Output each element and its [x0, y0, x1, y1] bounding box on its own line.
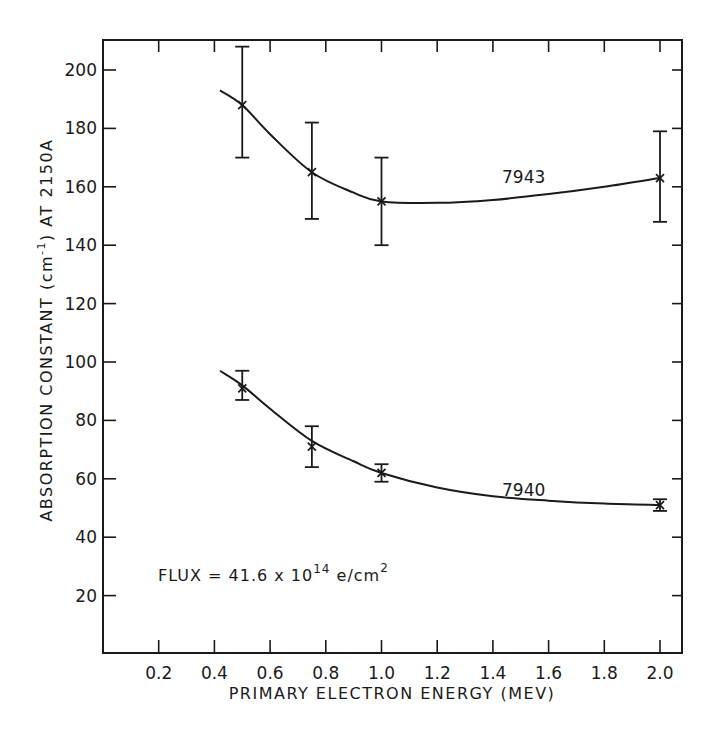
- data-point-7943: [653, 131, 667, 222]
- y-axis-ticks: 20406080100120140160180200: [65, 60, 682, 606]
- x-tick-label: 0.6: [257, 663, 284, 683]
- x-axis-title: PRIMARY ELECTRON ENERGY (MEV): [229, 684, 556, 703]
- plot-border: [103, 40, 682, 653]
- series-curves: [220, 90, 660, 505]
- y-tick-label: 180: [65, 118, 97, 138]
- plot-frame: [103, 40, 682, 653]
- y-axis-title-sup: -1: [35, 241, 48, 255]
- flux-exponent: 14: [313, 562, 330, 576]
- series-curve-7940: [220, 371, 660, 505]
- flux-annotation: FLUX = 41.6 x 1014 e/cm2: [158, 561, 389, 585]
- x-tick-label: 1.4: [479, 663, 506, 683]
- y-axis-title-tail: ) AT 2150A: [37, 138, 56, 241]
- chart: 0.20.40.60.81.01.21.41.61.82.0 204060801…: [0, 0, 723, 735]
- y-tick-label: 40: [75, 527, 97, 547]
- y-tick-label: 80: [75, 410, 97, 430]
- x-tick-label: 0.4: [201, 663, 228, 683]
- y-tick-label: 100: [65, 352, 97, 372]
- y-tick-label: 60: [75, 469, 97, 489]
- flux-unit: e/cm: [330, 566, 380, 585]
- flux-prefix: FLUX = 41.6 x 10: [158, 566, 313, 585]
- y-tick-label: 20: [75, 586, 97, 606]
- data-point-7940: [375, 464, 389, 482]
- x-tick-label: 1.8: [591, 663, 618, 683]
- data-point-7940: [235, 371, 249, 400]
- data-points: [235, 47, 667, 511]
- x-tick-label: 0.8: [312, 663, 339, 683]
- flux-unit-exponent: 2: [380, 561, 389, 575]
- y-tick-label: 120: [65, 294, 97, 314]
- x-tick-label: 1.2: [424, 663, 451, 683]
- y-axis-title: ABSORPTION CONSTANT (cm-1) AT 2150A: [35, 138, 56, 521]
- x-tick-label: 0.2: [145, 663, 172, 683]
- y-tick-label: 200: [65, 60, 97, 80]
- x-axis-ticks: 0.20.40.60.81.01.21.41.61.82.0: [145, 40, 673, 683]
- series-label-7943: 7943: [502, 167, 545, 187]
- x-tick-label: 1.0: [368, 663, 395, 683]
- y-axis-title-main: ABSORPTION CONSTANT (cm: [37, 255, 56, 522]
- x-tick-label: 2.0: [646, 663, 673, 683]
- series-label-7940: 7940: [502, 480, 545, 500]
- series-curve-7943: [220, 90, 660, 203]
- data-point-7943: [305, 123, 319, 219]
- y-tick-label: 160: [65, 177, 97, 197]
- data-point-7940: [305, 426, 319, 467]
- y-tick-label: 140: [65, 235, 97, 255]
- x-tick-label: 1.6: [535, 663, 562, 683]
